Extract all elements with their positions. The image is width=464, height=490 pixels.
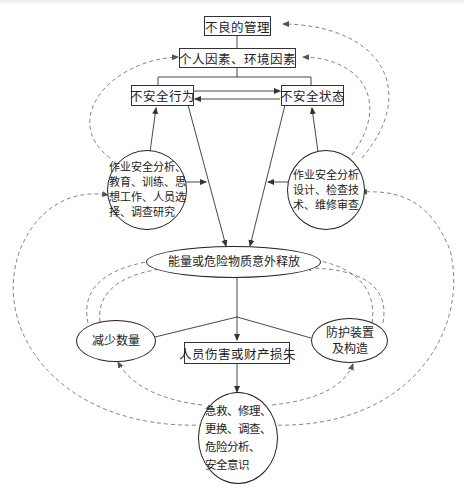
reduce-quantity-ellipse: 减少数量 <box>76 320 156 362</box>
poor-management-box: 不良的管理 <box>204 16 271 36</box>
energy-release-label: 能量或危险物质意外释放 <box>168 254 300 270</box>
energy-release-ellipse: 能量或危险物质意外释放 <box>146 246 321 278</box>
injury-loss-box: 人员伤害或财产损失 <box>184 342 290 364</box>
reduce-quantity-label: 减少数量 <box>92 333 140 349</box>
personal-env-factors-label: 个人因素、环境因素 <box>179 49 296 68</box>
dashed-feedback-loops <box>13 24 454 425</box>
unsafe-act-box: 不安全行为 <box>131 85 194 106</box>
post-accident-circle: 急救、修理、 更换、调查、 危险分析、 安全意识 <box>198 392 278 484</box>
protective-devices-label: 防护装置 及构造 <box>326 325 374 357</box>
protective-devices-ellipse: 防护装置 及构造 <box>311 318 388 363</box>
act-controls-circle: 作业安全分析、 教育、训练、思 想工作、人员选 择、调查研究 <box>107 150 187 230</box>
unsafe-act-label: 不安全行为 <box>130 86 195 105</box>
injury-loss-label: 人员伤害或财产损失 <box>179 344 296 363</box>
condition-controls-label: 作业安全分析 设计、检查技 术、维修审查 <box>293 168 359 213</box>
unsafe-condition-label: 不安全状态 <box>280 86 345 105</box>
condition-controls-circle: 作业安全分析 设计、检查技 术、维修审查 <box>287 150 365 230</box>
poor-management-label: 不良的管理 <box>205 17 270 36</box>
unsafe-condition-box: 不安全状态 <box>281 85 344 106</box>
personal-env-factors-box: 个人因素、环境因素 <box>179 48 296 68</box>
act-controls-label: 作业安全分析、 教育、训练、思 想工作、人员选 择、调查研究 <box>109 160 186 220</box>
post-accident-label: 急救、修理、 更换、调查、 危险分析、 安全意识 <box>205 402 271 474</box>
